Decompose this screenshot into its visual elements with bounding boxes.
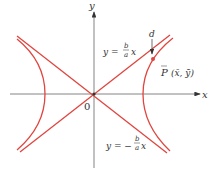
svg-text:y =: y = [102, 47, 119, 57]
svg-text:x: x [141, 141, 146, 151]
y-axis-label: y [88, 0, 95, 11]
svg-text:b: b [135, 135, 140, 143]
x-axis-label: x [202, 89, 208, 100]
diagram-canvas: y x 0 d y = b a x y = − b a x P (x̄, ȳ) [0, 0, 219, 175]
svg-text:a: a [124, 51, 128, 59]
hyperbola-left-branch [17, 39, 45, 150]
svg-text:b: b [124, 42, 129, 50]
asymptote-negative-label: y = − b a x [105, 135, 146, 152]
distance-label: d [149, 29, 155, 39]
hyperbola-diagram: y x 0 d y = b a x y = − b a x P (x̄, ȳ) [0, 0, 219, 175]
svg-text:(x̄, ȳ): (x̄, ȳ) [171, 68, 194, 78]
point-p-label: P (x̄, ȳ) [160, 66, 194, 78]
svg-text:x: x [131, 47, 136, 57]
asymptote-positive-label: y = b a x [102, 42, 136, 59]
hyperbola-right-branch [143, 38, 173, 151]
point-p-dot [151, 57, 155, 61]
origin-label: 0 [84, 101, 90, 112]
svg-text:P: P [160, 67, 168, 78]
svg-text:y = −: y = − [105, 141, 132, 151]
origin-dot [92, 92, 95, 95]
svg-text:a: a [135, 144, 139, 152]
asymptote-negative [17, 36, 167, 153]
